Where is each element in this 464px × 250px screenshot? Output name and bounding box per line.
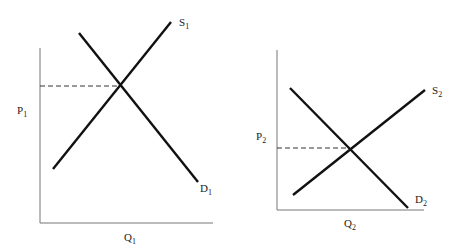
supply-curve-1 [53,22,171,169]
quantity-label-1: Q1 [124,231,136,246]
market-1-diagram: P1 Q1 S1 D1 [17,16,213,246]
market-2-diagram: P2 Q2 S2 D2 [256,50,442,232]
price-label-1: P1 [17,104,27,119]
price-label-2: P2 [256,130,266,145]
supply-label-1: S1 [179,16,189,31]
quantity-label-2: Q2 [344,217,356,232]
demand-label-2: D2 [415,193,427,208]
supply-label-2: S2 [432,84,442,99]
demand-curve-2 [290,88,408,208]
demand-label-1: D1 [200,182,212,197]
supply-curve-2 [293,90,425,195]
demand-curve-1 [79,33,198,182]
supply-demand-diagrams: P1 Q1 S1 D1 P2 Q2 S2 D2 [0,0,464,250]
